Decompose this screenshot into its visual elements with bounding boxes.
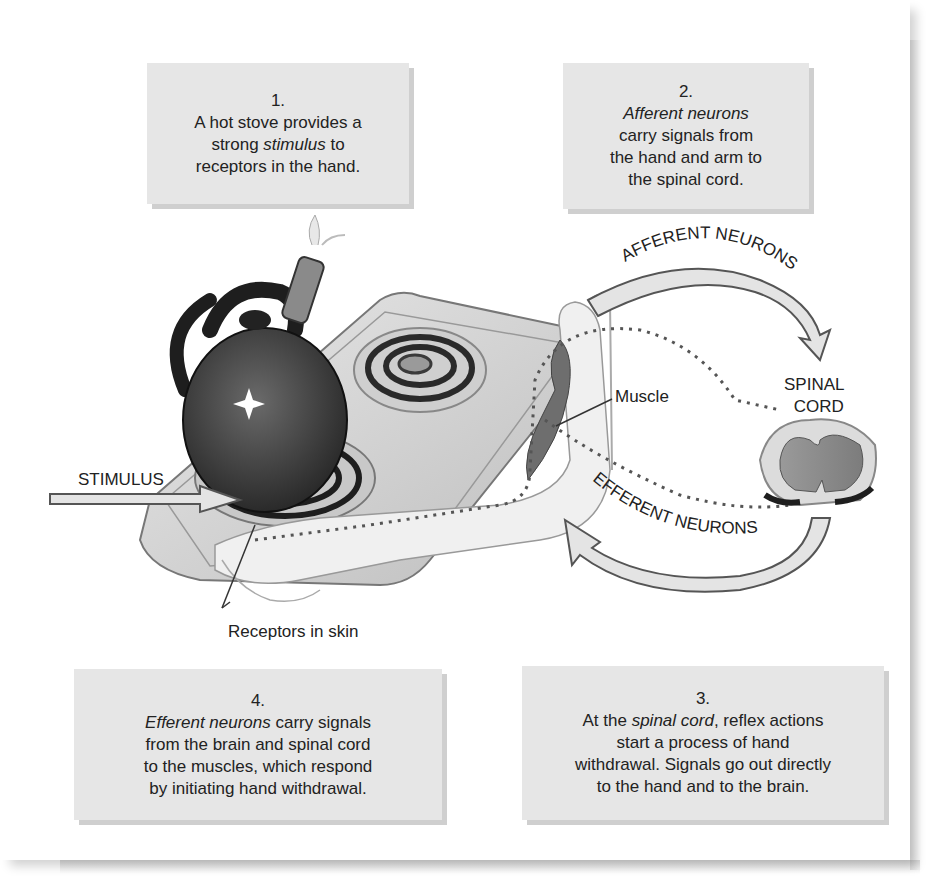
spinal-cord-label: SPINAL CORD xyxy=(784,374,844,418)
afferent-arrow-icon xyxy=(588,269,830,360)
spinal-cord-icon xyxy=(760,419,876,505)
stimulus-label: STIMULUS xyxy=(78,470,164,490)
step-box-4: 4. Efferent neurons carry signals from t… xyxy=(74,669,442,820)
step-number: 1. xyxy=(147,90,409,112)
step-number: 3. xyxy=(522,688,884,710)
step-text: Efferent neurons carry signals from the … xyxy=(74,712,442,800)
step-number: 4. xyxy=(74,690,442,712)
efferent-neurons-label: EFFERENT NEURONS xyxy=(590,468,759,537)
afferent-neurons-label: AFFERENT NEURONS xyxy=(618,223,801,273)
step-text: A hot stove provides a strong stimulus t… xyxy=(147,112,409,178)
muscle-label: Muscle xyxy=(615,387,669,407)
step-number: 2. xyxy=(563,81,809,103)
step-box-2: 2. Afferent neurons carry signals from t… xyxy=(563,63,809,209)
step-text: At the spinal cord, reflex actions start… xyxy=(522,710,884,798)
step-text: Afferent neurons carry signals from the … xyxy=(563,103,809,191)
step-box-3: 3. At the spinal cord, reflex actions st… xyxy=(522,666,884,820)
receptors-label: Receptors in skin xyxy=(228,622,358,642)
step-box-1: 1. A hot stove provides a strong stimulu… xyxy=(147,63,409,204)
kettle-icon xyxy=(177,215,347,512)
